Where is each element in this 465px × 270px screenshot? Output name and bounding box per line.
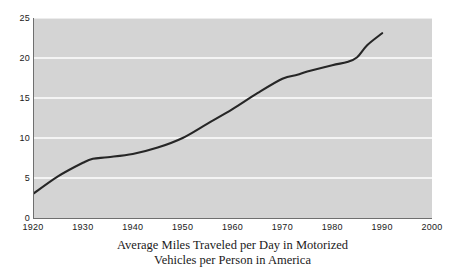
x-tick-label: 1970 [262,222,302,233]
x-tick-label: 1980 [312,222,352,233]
caption-line-2: Vehicles per Person in America [0,253,465,268]
x-tick-label: 1920 [13,222,53,233]
chart-caption: Average Miles Traveled per Day in Motori… [0,238,465,268]
x-tick-label: 1950 [163,222,203,233]
chart-figure: 0510152025 19201930194019501960197019801… [0,0,465,270]
caption-line-1: Average Miles Traveled per Day in Motori… [0,238,465,253]
x-axis-tick-labels: 192019301940195019601970198019902000 [0,0,465,270]
x-tick-label: 1930 [63,222,103,233]
x-tick-label: 1940 [113,222,153,233]
x-tick-label: 1960 [213,222,253,233]
x-tick-label: 1990 [362,222,402,233]
x-tick-label: 2000 [412,222,452,233]
